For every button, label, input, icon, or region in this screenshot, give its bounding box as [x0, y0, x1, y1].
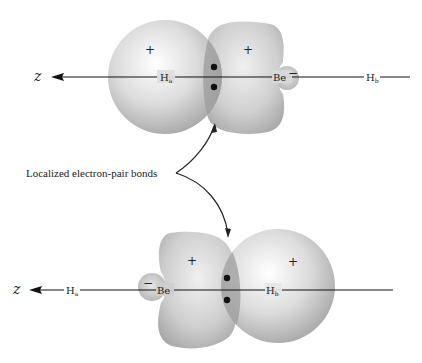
arrowhead-icon — [225, 228, 231, 238]
curved-arrow-down — [176, 173, 228, 234]
z-axis-label: z — [12, 281, 21, 297]
plus-sign: + — [145, 43, 155, 57]
atom-label-be: Be — [157, 285, 170, 296]
minus-sign: − — [288, 66, 298, 80]
atom-label-be: Be — [273, 72, 286, 83]
minus-sign: − — [143, 276, 153, 290]
orbital-diagram: z Ha Be Hb + + − Localized electron-pair… — [0, 0, 422, 363]
curved-arrow-up — [176, 126, 214, 173]
annotation-label: Localized electron-pair bonds — [26, 167, 157, 179]
electron-dot — [224, 275, 230, 281]
plus-sign: + — [288, 255, 298, 269]
bottom-panel: z Ha Be Hb − + + — [12, 229, 393, 348]
annotation: Localized electron-pair bonds — [26, 123, 231, 238]
plus-sign: + — [187, 254, 197, 268]
electron-dot — [211, 64, 217, 70]
plus-sign: + — [243, 43, 253, 57]
top-panel: z Ha Be Hb + + − — [33, 20, 410, 134]
electron-dot — [211, 84, 217, 90]
electron-dot — [224, 297, 230, 303]
z-axis-label: z — [33, 68, 42, 84]
